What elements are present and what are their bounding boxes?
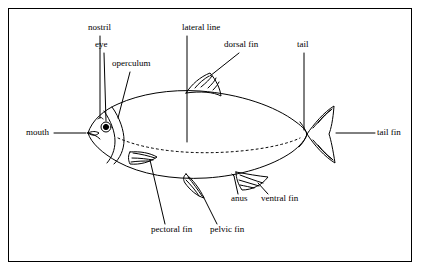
- tail-fin-ray-4: [318, 145, 332, 159]
- label-tail-fin: tail fin: [377, 127, 401, 137]
- leader-operculum: [118, 72, 130, 118]
- label-ventral-fin: ventral fin: [261, 193, 298, 203]
- label-dorsal-fin: dorsal fin: [224, 39, 258, 49]
- label-anus: anus: [231, 193, 248, 203]
- leader-pelvic-fin: [203, 196, 217, 224]
- ventral-fin-ray-3: [240, 185, 254, 188]
- label-lateral-line: lateral line: [182, 22, 220, 32]
- diagram-canvas: nostril eye operculum lateral line dorsa…: [0, 0, 421, 271]
- label-eye: eye: [95, 39, 108, 49]
- leader-anus: [234, 176, 238, 194]
- label-pelvic-fin: pelvic fin: [210, 224, 244, 234]
- label-nostril: nostril: [88, 22, 111, 32]
- pectoral-fin-ray-1: [133, 153, 155, 158]
- fish-body-outline: [88, 91, 307, 179]
- label-pectoral-fin: pectoral fin: [151, 224, 192, 234]
- label-operculum: operculum: [112, 58, 151, 68]
- label-mouth: mouth: [26, 127, 49, 137]
- operculum-outline: [112, 107, 124, 164]
- leader-pectoral-fin: [150, 160, 165, 224]
- label-tail: tail: [297, 39, 309, 49]
- tail-fin-ray-2: [318, 110, 331, 123]
- leader-dorsal-fin: [210, 53, 239, 76]
- eye-pupil: [103, 124, 108, 129]
- tail-fin-outline: [307, 106, 335, 163]
- lateral-line-path: [118, 138, 300, 153]
